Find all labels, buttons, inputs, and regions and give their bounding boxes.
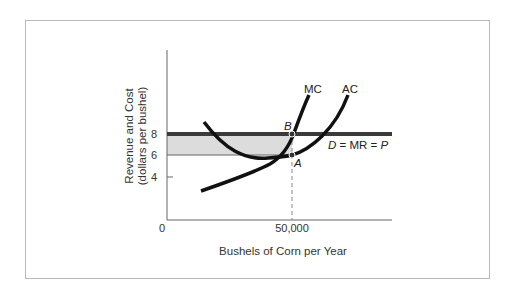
- profit-chart: B A MC AC D = MR = P 8 6 4 0 50,000 Bush…: [0, 0, 517, 297]
- demand-label-d: D: [328, 139, 336, 151]
- point-b-label: B: [284, 120, 292, 132]
- y-tick-label-8: 8: [151, 128, 157, 140]
- mc-label: MC: [304, 83, 322, 95]
- x-tick-label-0: 0: [159, 222, 165, 234]
- point-a-label: A: [293, 157, 302, 169]
- y-axis-title-line2: (dollars per bushel): [136, 87, 148, 186]
- demand-label-mid: = MR =: [336, 139, 380, 151]
- y-tick-label-6: 6: [151, 149, 157, 161]
- y-axis-title-line1: Revenue and Cost: [123, 88, 135, 184]
- x-axis-title: Bushels of Corn per Year: [219, 245, 347, 257]
- y-tick-label-4: 4: [151, 171, 157, 183]
- demand-label-p: P: [380, 139, 388, 151]
- profit-area: [167, 134, 292, 155]
- x-tick-label-50000: 50,000: [275, 222, 309, 234]
- ac-label: AC: [342, 83, 358, 95]
- demand-label: D = MR = P: [328, 139, 388, 151]
